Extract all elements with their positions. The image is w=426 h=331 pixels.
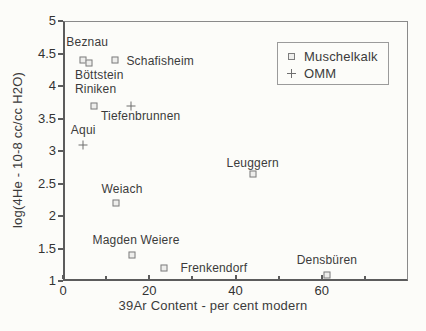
data-point-frenkendorf-square-marker	[160, 265, 167, 272]
data-point-weiach-square-marker	[113, 200, 120, 207]
data-point-magden-weiere-square-marker	[129, 252, 136, 259]
data-point-label-b-ttstein: Böttstein	[75, 68, 124, 82]
y-axis-tick	[58, 248, 63, 250]
y-axis-tick-label: 1.5	[20, 242, 56, 256]
data-point-aqui-plus-marker	[79, 140, 88, 149]
x-axis-tick	[148, 275, 150, 279]
data-point-densb-ren-square-marker	[323, 271, 330, 278]
data-point-label-tiefenbrunnen: Tiefenbrunnen	[101, 109, 181, 123]
y-axis-tick-label: 2	[20, 209, 56, 223]
figure: 39Ar Content - per cent modern log(4He -…	[0, 0, 426, 331]
y-axis-tick	[58, 280, 63, 282]
square-marker-icon	[288, 53, 295, 60]
data-point-label-riniken: Riniken	[75, 82, 116, 96]
data-point-label-leuggern: Leuggern	[227, 156, 279, 170]
x-axis-minor-tick	[278, 276, 280, 279]
data-point-schafisheim-square-marker	[112, 57, 119, 64]
y-axis-tick-label: 5	[20, 14, 56, 28]
x-axis-tick-label: 20	[132, 284, 166, 298]
data-point-label-weiach: Weiach	[102, 182, 143, 196]
data-point-label-densb-ren: Densbüren	[297, 253, 358, 267]
y-axis-tick	[58, 215, 63, 217]
data-point-b-ttstein-square-marker	[86, 60, 93, 67]
x-axis-tick	[62, 275, 64, 279]
x-axis-title: 39Ar Content - per cent modern	[0, 298, 426, 313]
y-axis-tick	[58, 118, 63, 120]
y-axis-tick-label: 4	[20, 79, 56, 93]
y-axis-tick	[58, 85, 63, 87]
legend-label: Muschelkalk	[304, 49, 378, 64]
legend-entry-omm: OMM	[278, 65, 388, 82]
plus-marker-icon	[287, 69, 296, 78]
y-axis-tick	[58, 183, 63, 185]
x-axis-tick-label: 60	[305, 284, 339, 298]
data-point-leuggern-square-marker	[249, 170, 256, 177]
legend-entry-muschelkalk: Muschelkalk	[278, 48, 388, 65]
x-axis-tick-label: 40	[219, 284, 253, 298]
data-point-label-schafisheim: Schafisheim	[126, 54, 194, 68]
y-axis-tick	[58, 20, 63, 22]
data-point-label-aqui: Aqui	[71, 123, 96, 137]
y-axis-tick-label: 4.5	[20, 47, 56, 61]
plus-marker-icon	[278, 69, 304, 78]
legend: MuschelkalkOMM	[277, 42, 389, 85]
y-axis-tick	[58, 53, 63, 55]
x-axis-minor-tick	[105, 276, 107, 279]
data-point-riniken-square-marker	[90, 102, 97, 109]
x-axis-tick	[235, 275, 237, 279]
square-marker-icon	[278, 53, 304, 60]
data-point-label-magden-weiere: Magden Weiere	[92, 233, 179, 247]
legend-label: OMM	[304, 66, 336, 81]
y-axis-tick-label: 2.5	[20, 177, 56, 191]
data-point-label-beznau: Beznau	[66, 35, 108, 49]
y-axis-tick-label: 3.5	[20, 112, 56, 126]
x-axis-tick-label: 0	[46, 284, 80, 298]
y-axis-tick	[58, 150, 63, 152]
x-axis-minor-tick	[364, 276, 366, 279]
x-axis-minor-tick	[191, 276, 193, 279]
y-axis-tick-label: 3	[20, 144, 56, 158]
data-point-label-frenkendorf: Frenkendorf	[180, 261, 247, 275]
